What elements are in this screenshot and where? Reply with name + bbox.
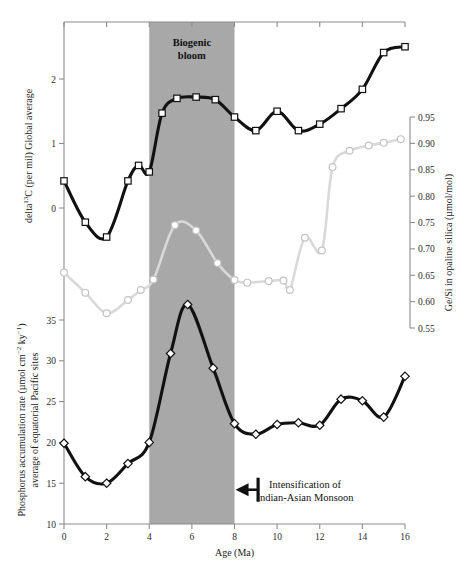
data-point-marker bbox=[125, 178, 131, 184]
data-point-marker bbox=[317, 121, 323, 127]
data-point-marker bbox=[287, 287, 294, 294]
data-point-marker bbox=[380, 49, 386, 55]
left-top-axis-title: delta13C (per mil) Global average bbox=[22, 88, 35, 223]
data-point-marker bbox=[253, 127, 259, 133]
data-point-marker bbox=[231, 277, 238, 284]
data-point-marker bbox=[212, 96, 218, 102]
data-point-marker bbox=[252, 430, 260, 438]
data-point-marker bbox=[61, 269, 68, 276]
gesi-tick-label: 0.65 bbox=[418, 271, 435, 281]
monsoon-label-line1: Intensification of bbox=[269, 479, 342, 490]
d13c-tick-label: 2 bbox=[51, 75, 56, 85]
p-acc-tick-label: 20 bbox=[47, 438, 57, 448]
data-point-marker bbox=[231, 114, 237, 120]
data-point-marker bbox=[273, 420, 281, 428]
data-point-marker bbox=[301, 234, 308, 241]
data-point-marker bbox=[265, 278, 272, 285]
data-point-marker bbox=[137, 287, 144, 294]
data-point-marker bbox=[174, 95, 180, 101]
x-tick-label: 2 bbox=[104, 532, 109, 542]
data-point-marker bbox=[193, 227, 200, 234]
gesi-tick-label: 0.70 bbox=[418, 244, 435, 254]
p-acc-tick-label: 10 bbox=[47, 520, 57, 530]
data-point-marker bbox=[159, 110, 165, 116]
data-point-marker bbox=[380, 139, 387, 146]
multi-axis-paleo-chart: 02468101214160121015202530350.550.600.65… bbox=[0, 0, 466, 571]
data-point-marker bbox=[244, 279, 251, 286]
data-point-marker bbox=[359, 86, 365, 92]
x-tick-label: 0 bbox=[62, 532, 67, 542]
data-point-marker bbox=[171, 222, 178, 229]
gesi-tick-label: 0.90 bbox=[418, 139, 435, 149]
p-acc-tick-label: 25 bbox=[47, 397, 57, 407]
gesi-tick-label: 0.80 bbox=[418, 192, 435, 202]
data-point-marker bbox=[346, 147, 353, 154]
gesi-tick-label: 0.95 bbox=[418, 113, 435, 123]
gesi-tick-label: 0.75 bbox=[418, 218, 435, 228]
data-point-marker bbox=[103, 310, 110, 317]
data-point-marker bbox=[125, 297, 132, 304]
biogenic-bloom-label-line2: bloom bbox=[178, 50, 206, 61]
x-tick-label: 14 bbox=[358, 532, 368, 542]
data-point-marker bbox=[318, 247, 325, 254]
x-tick-label: 10 bbox=[272, 532, 282, 542]
data-point-marker bbox=[397, 136, 404, 143]
data-point-marker bbox=[338, 105, 344, 111]
left-bottom-axis-title-line2: average of equatorial Pacific sites bbox=[29, 352, 40, 487]
data-point-marker bbox=[294, 419, 302, 427]
data-point-marker bbox=[150, 276, 157, 283]
biogenic-bloom-label-line1: Biogenic bbox=[173, 37, 212, 48]
data-point-marker bbox=[365, 142, 372, 149]
x-tick-label: 6 bbox=[190, 532, 195, 542]
figure-canvas: 02468101214160121015202530350.550.600.65… bbox=[0, 0, 466, 571]
data-point-marker bbox=[103, 234, 109, 240]
data-point-marker bbox=[82, 219, 88, 225]
data-point-marker bbox=[193, 94, 199, 100]
x-tick-label: 4 bbox=[147, 532, 152, 542]
data-point-marker bbox=[274, 108, 280, 114]
x-axis-title: Age (Ma) bbox=[215, 547, 254, 559]
left-arrow-icon bbox=[236, 483, 249, 496]
monsoon-label-line2: Indian-Asian Monsoon bbox=[256, 492, 354, 503]
monsoon-annotation: Intensification of Indian-Asian Monsoon bbox=[236, 478, 355, 503]
data-point-marker bbox=[146, 169, 152, 175]
gesi-tick-label: 0.85 bbox=[418, 165, 435, 175]
p-acc-tick-label: 35 bbox=[47, 316, 57, 326]
gesi-tick-label: 0.55 bbox=[418, 324, 435, 334]
p-acc-tick-label: 30 bbox=[47, 356, 57, 366]
axis-titles-group: Age (Ma) delta13C (per mil) Global avera… bbox=[15, 88, 455, 559]
d13c-tick-label: 1 bbox=[51, 139, 56, 149]
right-axis-title: Ge/Si in opaline silica (µmol/mol) bbox=[443, 174, 455, 311]
data-point-marker bbox=[280, 277, 287, 284]
p-acc-tick-label: 15 bbox=[47, 479, 57, 489]
data-point-marker bbox=[295, 127, 301, 133]
gesi-tick-label: 0.60 bbox=[418, 297, 435, 307]
data-point-marker bbox=[214, 260, 221, 267]
x-tick-label: 16 bbox=[400, 532, 410, 542]
series-diamond-line bbox=[60, 300, 409, 487]
data-point-marker bbox=[82, 289, 89, 296]
data-point-marker bbox=[402, 44, 408, 50]
data-curves-group bbox=[60, 44, 409, 488]
d13c-tick-label: 0 bbox=[51, 204, 56, 214]
x-tick-label: 12 bbox=[315, 532, 325, 542]
data-point-marker bbox=[135, 162, 141, 168]
data-point-marker bbox=[61, 178, 67, 184]
data-point-marker bbox=[329, 164, 336, 171]
x-tick-label: 8 bbox=[232, 532, 237, 542]
left-bottom-axis-title-line1: Phosphorus accumulation rate (µmol cm−2 … bbox=[15, 323, 28, 516]
